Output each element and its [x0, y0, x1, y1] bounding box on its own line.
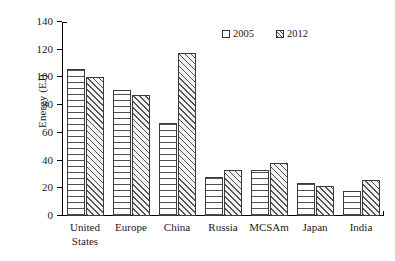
bar-2005[interactable]	[343, 191, 361, 216]
bar-group	[113, 22, 150, 216]
bar-group	[251, 22, 288, 216]
bar-2012[interactable]	[270, 163, 288, 216]
bar-2012[interactable]	[178, 53, 196, 217]
x-axis-label-line: States	[50, 234, 120, 248]
bar-group	[343, 22, 380, 216]
bar-group	[297, 22, 334, 216]
bar-2005[interactable]	[113, 90, 131, 216]
bar-group	[159, 22, 196, 216]
y-tick-label-120: 120	[37, 41, 54, 57]
legend-label-2005: 2005	[233, 28, 254, 39]
plot-area: 020406080100120140	[62, 22, 384, 216]
y-tick-label-80: 80	[42, 96, 53, 112]
x-axis-label: India	[326, 220, 395, 234]
y-tick-label-40: 40	[42, 152, 53, 168]
legend-swatch-2012-icon	[276, 30, 284, 38]
bar-2012[interactable]	[132, 95, 150, 216]
bar-2012[interactable]	[316, 186, 334, 216]
energy-bar-chart: Energy (EJ) 020406080100120140 UnitedSta…	[0, 0, 395, 261]
bar-2012[interactable]	[224, 170, 242, 216]
x-axis-labels: UnitedStatesEuropeChinaRussiaMCSAmJapanI…	[62, 220, 384, 260]
bar-2012[interactable]	[86, 77, 104, 216]
bar-2005[interactable]	[67, 69, 85, 216]
bar-2005[interactable]	[159, 123, 177, 216]
legend-item-2005: 2005	[222, 28, 254, 39]
bar-2012[interactable]	[362, 180, 380, 216]
bar-2005[interactable]	[205, 177, 223, 216]
bar-2005[interactable]	[297, 183, 315, 216]
legend-item-2012: 2012	[276, 28, 308, 39]
x-axis-label-line: India	[326, 220, 395, 234]
bars-layer	[62, 22, 384, 216]
y-tick-label-60: 60	[42, 124, 53, 140]
legend-label-2012: 2012	[287, 28, 308, 39]
chart-legend: 2005 2012	[222, 28, 308, 39]
bar-group	[205, 22, 242, 216]
bar-group	[67, 22, 104, 216]
y-tick-label-140: 140	[37, 13, 54, 29]
bar-2005[interactable]	[251, 170, 269, 216]
y-tick-label-100: 100	[37, 68, 54, 84]
legend-swatch-2005-icon	[222, 30, 230, 38]
y-tick-label-20: 20	[42, 179, 53, 195]
